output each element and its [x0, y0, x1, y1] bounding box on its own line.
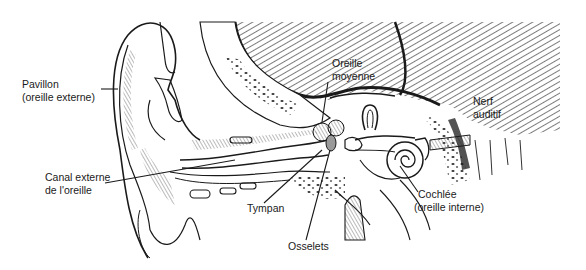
label-nerf-line2: auditif — [473, 108, 501, 121]
label-oreille-moyenne-line1: Oreille — [332, 57, 375, 70]
label-pavillon-line1: Pavillon — [22, 78, 95, 91]
label-pavillon-line2: (oreille externe) — [22, 91, 95, 104]
label-tympan-line1: Tympan — [247, 202, 284, 215]
label-tympan: Tympan — [247, 202, 284, 215]
leader-canal — [105, 160, 235, 183]
inner-ear — [355, 105, 429, 179]
middle-ear — [313, 120, 362, 151]
label-canal-line1: Canal externe — [45, 171, 110, 184]
label-canal-externe: Canal externe de l'oreille — [45, 171, 110, 197]
ear-anatomy-diagram — [0, 0, 586, 270]
auricle — [113, 22, 200, 258]
label-osselets: Osselets — [288, 240, 329, 253]
label-canal-line2: de l'oreille — [45, 184, 110, 197]
label-pavillon: Pavillon (oreille externe) — [22, 78, 95, 104]
label-oreille-moyenne-line2: moyenne — [332, 70, 375, 83]
label-nerf-line1: Nerf — [473, 95, 501, 108]
label-oreille-moyenne: Oreille moyenne — [332, 57, 375, 83]
label-cochlee-line2: (oreille interne) — [414, 201, 484, 214]
label-cochlee: Cochlée (oreille interne) — [414, 188, 484, 214]
label-nerf-auditif: Nerf auditif — [473, 95, 501, 121]
label-cochlee-line1: Cochlée — [414, 188, 484, 201]
label-osselets-line1: Osselets — [288, 240, 329, 253]
